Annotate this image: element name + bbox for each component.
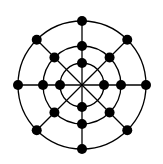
middle-node: [49, 52, 59, 62]
middle-node: [105, 108, 115, 118]
outer-node: [122, 35, 132, 45]
middle-node: [38, 80, 48, 90]
outer-node: [32, 35, 42, 45]
concentric-graph-diagram: [0, 0, 163, 164]
outer-node: [32, 125, 42, 135]
inner-node: [99, 80, 109, 90]
outer-node: [77, 16, 87, 26]
outer-node: [13, 80, 23, 90]
inner-node: [55, 80, 65, 90]
middle-node: [77, 41, 87, 51]
inner-node: [77, 58, 87, 68]
middle-node: [105, 52, 115, 62]
outer-node: [77, 144, 87, 154]
middle-node: [77, 119, 87, 129]
inner-node: [77, 102, 87, 112]
middle-node: [49, 108, 59, 118]
outer-node: [122, 125, 132, 135]
middle-node: [116, 80, 126, 90]
outer-node: [141, 80, 151, 90]
